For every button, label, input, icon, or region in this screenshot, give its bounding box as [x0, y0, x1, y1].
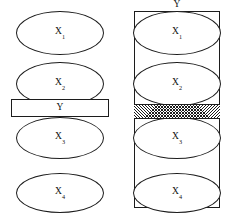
- node-base: X: [172, 131, 179, 141]
- node-subscript: 1: [62, 33, 65, 40]
- node-x2-right: X2: [133, 62, 221, 106]
- node-base: X: [172, 186, 179, 196]
- node-base: X: [172, 26, 179, 36]
- node-subscript: 1: [179, 33, 182, 40]
- y-band-hatched: [134, 104, 220, 119]
- diagram-canvas: X1 X2 X3 X4 Y Y X1: [0, 0, 232, 216]
- node-x4-right: X4: [133, 173, 221, 213]
- left-panel: X1 X2 X3 X4 Y: [0, 0, 120, 216]
- node-base: X: [55, 131, 62, 141]
- node-base: X: [172, 77, 179, 87]
- right-panel: Y X1 X2 X3 X4: [120, 0, 232, 216]
- node-label: X3: [172, 132, 182, 143]
- y-bar-label: Y: [57, 103, 64, 113]
- node-base: X: [55, 186, 62, 196]
- node-label: X1: [172, 27, 182, 38]
- node-base: X: [55, 26, 62, 36]
- node-x3-right: X3: [133, 117, 221, 159]
- frame-caption: Y: [134, 0, 220, 10]
- node-x3-left: X3: [16, 117, 104, 159]
- node-label: X4: [172, 187, 182, 198]
- node-label: X4: [55, 187, 65, 198]
- node-subscript: 4: [179, 193, 182, 200]
- node-subscript: 2: [179, 84, 182, 91]
- node-subscript: 3: [62, 138, 65, 145]
- node-x1-left: X1: [16, 11, 104, 55]
- y-bar-left: Y: [11, 99, 109, 117]
- node-subscript: 3: [179, 138, 182, 145]
- node-label: X3: [55, 132, 65, 143]
- node-x4-left: X4: [16, 173, 104, 213]
- node-subscript: 4: [62, 193, 65, 200]
- node-subscript: 2: [62, 84, 65, 91]
- node-base: X: [55, 77, 62, 87]
- node-label: X2: [55, 78, 65, 89]
- node-label: X2: [172, 78, 182, 89]
- node-x1-right: X1: [133, 11, 221, 55]
- node-label: X1: [55, 27, 65, 38]
